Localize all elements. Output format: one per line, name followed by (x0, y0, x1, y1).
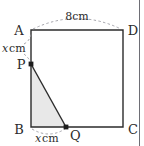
vertex-label-a: A (13, 23, 24, 38)
geometry-figure: A D C B P Q 8cm x cm x cm (0, 0, 144, 146)
geometry-diagram-canvas: A D C B P Q 8cm x cm x cm (0, 0, 144, 146)
point-marker-q (64, 125, 69, 130)
point-label-q: Q (70, 128, 81, 143)
measure-label-left: x cm (2, 42, 26, 55)
vertex-label-d: D (128, 23, 138, 38)
point-label-p: P (17, 57, 26, 72)
vertex-label-b: B (14, 122, 24, 137)
measure-label-bottom-var: x (35, 132, 42, 145)
measure-label-left-var: x (2, 42, 9, 55)
point-marker-p (29, 62, 34, 67)
measure-label-top: 8cm (65, 10, 89, 23)
measure-label-bottom-unit: cm (42, 132, 59, 145)
measure-label-bottom: x cm (35, 132, 59, 145)
measure-label-left-unit: cm (9, 42, 26, 55)
vertex-label-c: C (128, 122, 138, 137)
